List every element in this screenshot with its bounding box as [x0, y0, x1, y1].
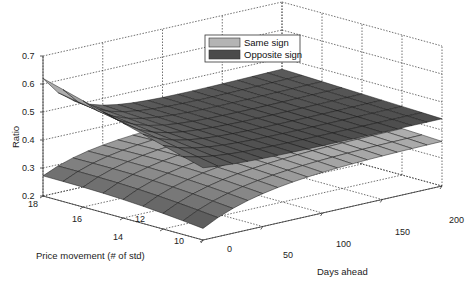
z-tick: 0.5 — [22, 107, 35, 117]
days-axis-label: Days ahead — [317, 266, 368, 277]
legend: Same sign Opposite sign — [205, 35, 302, 62]
price-tick: 12 — [135, 214, 145, 224]
days-axis-ticks: 0 50 100 150 200 — [227, 215, 464, 260]
z-tick: 0.4 — [22, 135, 35, 145]
legend-swatch-opposite-sign — [209, 50, 240, 59]
z-tick: 0.7 — [22, 51, 35, 61]
days-tick: 100 — [336, 239, 351, 249]
price-tick: 14 — [113, 232, 123, 242]
price-axis-label: Price movement (# of std) — [36, 250, 145, 261]
price-tick: 18 — [28, 199, 38, 209]
z-tick: 0.3 — [22, 163, 35, 173]
price-tick: 10 — [174, 236, 184, 246]
legend-swatch-same-sign — [209, 38, 240, 47]
days-tick: 0 — [227, 244, 232, 254]
price-tick: 16 — [72, 214, 82, 224]
days-tick: 50 — [283, 250, 293, 260]
z-axis-ticks: 0.2 0.3 0.4 0.5 0.6 0.7 — [22, 51, 35, 201]
surface-chart: 0.2 0.3 0.4 0.5 0.6 0.7 Ratio 10 12 14 1… — [0, 0, 473, 285]
days-tick: 150 — [395, 227, 410, 237]
days-tick: 200 — [449, 215, 464, 225]
surfaces — [43, 69, 442, 228]
z-axis-label: Ratio — [10, 126, 21, 148]
z-tick: 0.6 — [22, 79, 35, 89]
legend-label-opposite-sign: Opposite sign — [244, 49, 302, 60]
legend-label-same-sign: Same sign — [244, 37, 289, 48]
